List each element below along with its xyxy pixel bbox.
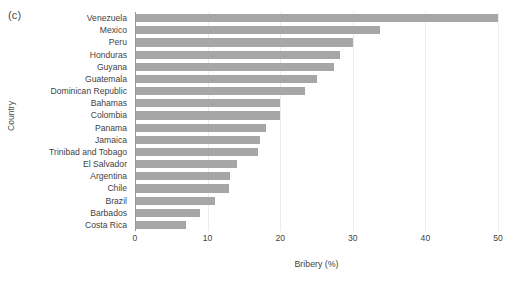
y-axis-tick-label: Argentina [90,170,127,182]
y-axis-tick-label: Chile [107,182,127,194]
y-axis-tick-label: Bahamas [91,97,127,109]
y-axis-tick-label: Costa Rica [85,219,127,231]
x-axis-title: Bribery (%) [135,259,498,269]
gridline [498,12,499,231]
y-axis-tick-label: Honduras [90,49,127,61]
x-axis-tick-label: 0 [133,233,138,243]
x-axis-tick-labels: 01020304050 [135,233,498,247]
y-axis-tick-labels: VenezuelaMexicoPeruHondurasGuyanaGuatema… [0,12,131,231]
plot-frame [135,12,498,231]
y-axis-tick-label: Brazil [106,195,128,207]
y-axis-tick-label: Panama [95,122,127,134]
y-axis-tick-label: Peru [109,36,127,48]
x-axis-tick-label: 10 [203,233,213,243]
y-axis-tick-label: Colombia [91,109,127,121]
y-axis-tick-label: Trinibad and Tobago [49,146,127,158]
x-axis-tick-label: 30 [348,233,358,243]
y-axis-tick-label: Jamaica [95,134,127,146]
x-axis-tick-label: 20 [275,233,285,243]
y-axis-tick-label: Mexico [100,24,127,36]
y-axis-tick-label: Guatemala [85,73,127,85]
y-axis-tick-label: Guyana [97,61,127,73]
y-axis-tick-label: El Salvador [83,158,127,170]
chart-screenshot: (c) Country VenezuelaMexicoPeruHondurasG… [0,0,513,283]
plot-area [135,12,498,231]
x-axis-tick-label: 40 [421,233,431,243]
x-axis-tick-label: 50 [493,233,503,243]
y-axis-tick-label: Barbados [90,207,127,219]
y-axis-tick-label: Venezuela [87,12,127,24]
y-axis-tick-label: Dominican Republic [51,85,127,97]
